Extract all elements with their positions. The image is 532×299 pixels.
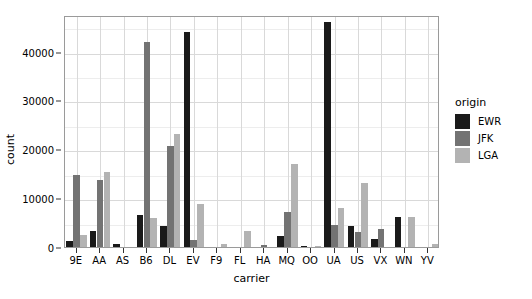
x-tick-label: 9E <box>69 255 82 266</box>
x-tick-mark <box>123 248 124 253</box>
x-tick-label: VX <box>374 255 388 266</box>
y-tick-label: 20000 <box>22 145 54 156</box>
bar-9E-JFK <box>73 175 79 247</box>
x-tick-mark <box>240 248 241 253</box>
bar-series-layer <box>65 17 438 247</box>
bar-YV-LGA <box>432 244 438 247</box>
x-tick-mark <box>287 248 288 253</box>
y-tick-label: 40000 <box>22 47 54 58</box>
x-axis-title: carrier <box>64 272 439 285</box>
y-tick-label: 10000 <box>22 194 54 205</box>
bar-EV-EWR <box>184 32 190 247</box>
x-tick-mark <box>380 248 381 253</box>
y-tick-mark <box>56 101 61 102</box>
x-axis-ticks: 9EAAASB6DLEVF9FLHAMQOOUAUSVXWNYV <box>64 248 439 270</box>
x-tick-mark <box>357 248 358 253</box>
x-tick-label: EV <box>186 255 199 266</box>
y-axis-ticks: 010000200003000040000 <box>0 0 64 299</box>
legend: origin EWRJFKLGA <box>455 96 529 165</box>
bar-VX-EWR <box>371 239 377 247</box>
legend-swatch-icon <box>455 131 470 146</box>
bar-DL-EWR <box>160 226 166 247</box>
legend-item-JFK[interactable]: JFK <box>455 131 529 146</box>
y-tick-mark <box>56 150 61 151</box>
bar-WN-EWR <box>395 217 401 247</box>
legend-item-LGA[interactable]: LGA <box>455 148 529 163</box>
bar-US-LGA <box>361 183 367 247</box>
x-tick-label: US <box>350 255 364 266</box>
x-tick-mark <box>404 248 405 253</box>
x-tick-mark <box>216 248 217 253</box>
x-tick-mark <box>427 248 428 253</box>
bar-MQ-JFK <box>284 212 290 247</box>
x-tick-label: WN <box>395 255 412 266</box>
x-tick-label: YV <box>421 255 434 266</box>
bar-9E-EWR <box>66 241 72 247</box>
y-tick-label: 0 <box>48 243 54 254</box>
bar-DL-JFK <box>167 146 173 247</box>
y-tick-mark <box>56 248 61 249</box>
bar-EV-LGA <box>197 204 203 247</box>
legend-title: origin <box>455 96 529 109</box>
y-tick-mark <box>56 199 61 200</box>
legend-label: EWR <box>478 116 501 127</box>
bar-UA-JFK <box>331 225 337 247</box>
x-tick-label: AS <box>116 255 129 266</box>
x-tick-mark <box>310 248 311 253</box>
bar-EV-JFK <box>190 240 196 247</box>
bar-9E-LGA <box>80 235 86 247</box>
bar-US-EWR <box>348 226 354 248</box>
bar-MQ-LGA <box>291 164 297 247</box>
legend-label: LGA <box>478 150 498 161</box>
plot-panel <box>64 16 439 248</box>
bar-F9-LGA <box>221 244 227 247</box>
x-tick-label: OO <box>302 255 318 266</box>
bar-HA-JFK <box>261 245 267 247</box>
legend-item-EWR[interactable]: EWR <box>455 114 529 129</box>
x-tick-mark <box>146 248 147 253</box>
bar-US-JFK <box>355 232 361 247</box>
x-tick-label: UA <box>326 255 340 266</box>
x-tick-mark <box>169 248 170 253</box>
bar-OO-EWR <box>301 246 307 247</box>
legend-items: EWRJFKLGA <box>455 114 529 163</box>
x-tick-mark <box>263 248 264 253</box>
legend-label: JFK <box>478 133 493 144</box>
legend-swatch-icon <box>455 114 470 129</box>
bar-DL-LGA <box>174 134 180 247</box>
bar-chart: count 010000200003000040000 9EAAASB6DLEV… <box>0 0 532 299</box>
x-tick-label: B6 <box>139 255 152 266</box>
bar-WN-LGA <box>408 217 414 247</box>
bar-FL-LGA <box>244 231 250 247</box>
x-tick-label: FL <box>234 255 245 266</box>
bar-UA-LGA <box>338 208 344 247</box>
x-tick-mark <box>193 248 194 253</box>
bar-B6-JFK <box>144 42 150 248</box>
bar-B6-EWR <box>137 215 143 247</box>
bar-AS-EWR <box>113 244 119 247</box>
bar-OO-LGA <box>315 246 321 247</box>
bar-B6-LGA <box>150 218 156 247</box>
x-tick-label: HA <box>256 255 270 266</box>
y-tick-label: 30000 <box>22 96 54 107</box>
bar-AA-LGA <box>104 172 110 248</box>
bar-UA-EWR <box>324 22 330 247</box>
bar-MQ-EWR <box>277 236 283 247</box>
x-tick-label: F9 <box>210 255 222 266</box>
legend-swatch-icon <box>455 148 470 163</box>
y-tick-mark <box>56 52 61 53</box>
x-tick-mark <box>76 248 77 253</box>
x-tick-mark <box>99 248 100 253</box>
x-tick-label: MQ <box>278 255 295 266</box>
x-tick-label: AA <box>92 255 106 266</box>
x-tick-mark <box>334 248 335 253</box>
bar-AA-JFK <box>97 180 103 247</box>
x-tick-label: DL <box>163 255 176 266</box>
bar-VX-JFK <box>378 229 384 247</box>
bar-AA-EWR <box>90 231 96 247</box>
